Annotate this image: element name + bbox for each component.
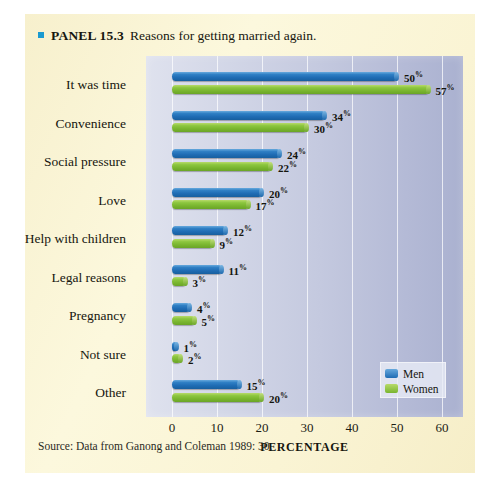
- bar-women: [172, 393, 262, 402]
- gridline-0: [172, 56, 173, 417]
- bar-cap: [322, 111, 327, 120]
- bar-women: [172, 200, 249, 209]
- bar-men: [172, 380, 240, 389]
- bar-cap: [426, 85, 431, 94]
- panel-header: PANEL 15.3Reasons for getting married ag…: [38, 26, 465, 46]
- x-tick-50: 50: [391, 420, 404, 436]
- bar-women: [172, 85, 429, 94]
- bar-cap: [259, 188, 264, 197]
- gridline-40: [352, 56, 353, 417]
- bar-value-label: 15%: [247, 378, 266, 392]
- bar-cap: [187, 303, 192, 312]
- bar-women: [172, 277, 186, 286]
- x-tick-30: 30: [301, 420, 314, 436]
- x-tick-10: 10: [211, 420, 224, 436]
- chart-legend: Men Women: [380, 362, 446, 398]
- category-label: Legal reasons: [0, 270, 126, 286]
- legend-item-women: Women: [385, 381, 441, 396]
- chart-plot-area: 50%57%34%30%24%22%20%17%12%9%11%3%4%5%1%…: [146, 56, 463, 417]
- bar-cap: [210, 239, 215, 248]
- panel-figure: PANEL 15.3Reasons for getting married ag…: [25, 14, 475, 473]
- bar-cap: [268, 162, 273, 171]
- source-note: Source: Data from Ganong and Coleman 198…: [38, 440, 272, 452]
- category-label: Help with children: [0, 231, 126, 247]
- bar-value-label: 34%: [332, 109, 351, 123]
- bar-value-label: 9%: [220, 237, 234, 251]
- bar-men: [172, 303, 190, 312]
- legend-item-men: Men: [385, 366, 441, 381]
- x-tick-40: 40: [346, 420, 359, 436]
- bar-cap: [183, 277, 188, 286]
- bar-men: [172, 226, 226, 235]
- bar-cap: [174, 342, 179, 351]
- bar-value-label: 30%: [314, 121, 333, 135]
- bar-value-label: 50%: [404, 70, 423, 84]
- legend-swatch-women: [385, 384, 398, 393]
- bar-men: [172, 188, 262, 197]
- category-label: Pregnancy: [0, 308, 126, 324]
- bar-men: [172, 111, 325, 120]
- bar-value-label: 3%: [193, 275, 207, 289]
- bar-cap: [259, 393, 264, 402]
- bar-men: [172, 72, 397, 81]
- bar-cap: [237, 380, 242, 389]
- bar-cap: [394, 72, 399, 81]
- page-title: Reasons for getting married again.: [130, 28, 316, 43]
- bar-women: [172, 162, 271, 171]
- bar-value-label: 57%: [436, 83, 455, 97]
- bar-men: [172, 149, 280, 158]
- bar-women: [172, 354, 181, 363]
- panel-label: PANEL 15.3: [51, 28, 124, 43]
- category-label: Not sure: [0, 347, 126, 363]
- bar-cap: [178, 354, 183, 363]
- bar-cap: [223, 226, 228, 235]
- bar-women: [172, 239, 213, 248]
- bar-men: [172, 342, 177, 351]
- square-bullet-icon: [38, 32, 44, 38]
- bar-men: [172, 265, 222, 274]
- bar-cap: [304, 123, 309, 132]
- legend-label-men: Men: [403, 368, 424, 380]
- category-label: Convenience: [0, 116, 126, 132]
- bar-cap: [219, 265, 224, 274]
- x-tick-20: 20: [256, 420, 269, 436]
- bar-value-label: 17%: [256, 198, 275, 212]
- bar-cap: [246, 200, 251, 209]
- bar-value-label: 12%: [233, 224, 252, 238]
- bar-value-label: 5%: [202, 314, 216, 328]
- bar-cap: [192, 316, 197, 325]
- category-label: Other: [0, 385, 126, 401]
- category-labels: It was timeConvenienceSocial pressureLov…: [0, 56, 126, 417]
- bar-value-label: 2%: [188, 352, 202, 366]
- category-label: Love: [0, 193, 126, 209]
- bar-value-label: 22%: [278, 160, 297, 174]
- legend-swatch-men: [385, 369, 398, 378]
- x-tick-0: 0: [169, 420, 176, 436]
- category-label: Social pressure: [0, 154, 126, 170]
- bar-women: [172, 123, 307, 132]
- bar-value-label: 11%: [229, 263, 247, 277]
- legend-label-women: Women: [403, 383, 438, 395]
- bar-women: [172, 316, 195, 325]
- category-label: It was time: [0, 77, 126, 93]
- bar-cap: [277, 149, 282, 158]
- x-tick-60: 60: [436, 420, 449, 436]
- bar-value-label: 20%: [269, 391, 288, 405]
